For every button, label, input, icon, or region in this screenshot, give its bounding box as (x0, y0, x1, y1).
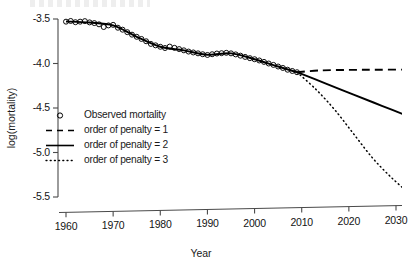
forecast-line-penalty-3 (297, 72, 402, 194)
open-circle-marker-icon (40, 108, 80, 123)
legend-item-penalty-2: order of penalty = 2 (40, 138, 200, 153)
x-tick-label: 2010 (282, 216, 322, 228)
y-tick-label: -4.0 (10, 57, 50, 69)
legend-label: order of penalty = 3 (84, 154, 168, 165)
y-tick-label: -5.5 (10, 190, 50, 202)
observed-mortality-points (64, 18, 300, 74)
x-tick-label: 2000 (235, 217, 275, 229)
x-axis-spine (59, 206, 402, 213)
x-axis-title: Year (0, 247, 402, 259)
x-tick-label: 1990 (187, 217, 227, 229)
dashed-line-icon (40, 123, 80, 138)
legend-item-penalty-1: order of penalty = 1 (40, 123, 200, 138)
x-tick-label: 1970 (93, 219, 133, 231)
legend-item-observed: Observed mortality (40, 108, 200, 123)
legend-item-penalty-3: order of penalty = 3 (40, 153, 200, 168)
fitted-curve-observed (66, 21, 297, 72)
legend-label: Observed mortality (84, 109, 166, 120)
x-tick-label: 2020 (329, 215, 369, 227)
dotted-line-icon (40, 153, 80, 168)
forecast-line-penalty-2 (297, 72, 402, 117)
x-tick-label: 1980 (140, 218, 180, 230)
chart-legend: Observed mortality order of penalty = 1 … (40, 108, 200, 170)
solid-line-icon (40, 138, 80, 153)
legend-label: order of penalty = 1 (84, 124, 168, 135)
x-tick-label: 2030 (376, 214, 412, 226)
x-tick-label: 1960 (46, 220, 86, 232)
legend-label: order of penalty = 2 (84, 139, 168, 150)
forecast-line-penalty-1 (297, 70, 402, 73)
y-tick-label: -3.5 (10, 12, 50, 24)
